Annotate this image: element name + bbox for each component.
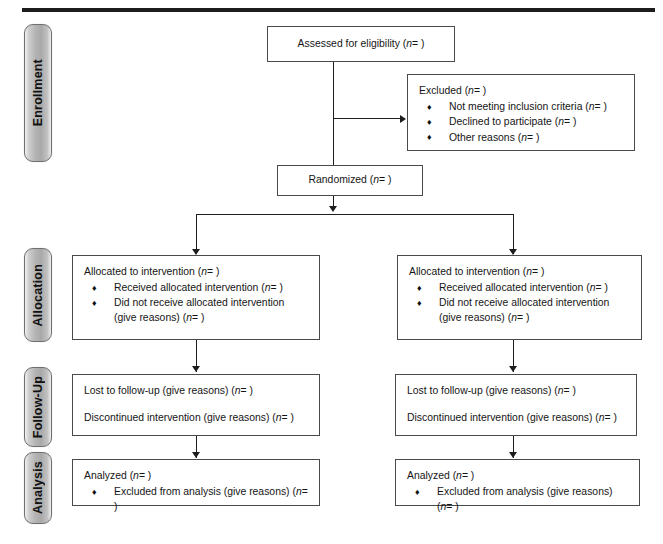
list-item: ♦Other reasons (n= ): [419, 131, 624, 146]
stage-label-allocation: Allocation: [24, 248, 52, 342]
randomized-text-after: = ): [379, 174, 391, 185]
allocated-right-heading: Allocated to intervention (n= ): [409, 265, 631, 279]
allocated-left-bullet-0-before: Received allocated intervention (: [114, 282, 265, 293]
followup-left-line1-after: = ): [241, 385, 253, 396]
stage-label-followup-text: Follow-Up: [31, 376, 45, 438]
analysis-left-heading-before: Analyzed (: [84, 470, 133, 481]
assessed-text-after: = ): [412, 38, 424, 49]
excluded-bullet-1-before: Declined to participate (: [449, 116, 558, 127]
followup-left-line2-after: = ): [282, 412, 294, 423]
list-item: ♦Received allocated intervention (n= ): [409, 281, 631, 296]
analysis-right-bullet-list: ♦Excluded from analysis (give reasons) (…: [407, 485, 629, 515]
followup-right-line2-after: = ): [605, 412, 617, 423]
followup-left-line-2: Discontinued intervention (give reasons)…: [84, 411, 309, 425]
list-item: ♦Did not receive allocated intervention …: [409, 296, 631, 326]
allocated-left-heading-after: = ): [207, 266, 219, 277]
arrowhead-followup-left: [192, 366, 200, 372]
stage-label-enrollment: Enrollment: [24, 24, 52, 162]
box-analysis-left: Analyzed (n= ) ♦Excluded from analysis (…: [72, 459, 320, 506]
box-assessed-for-eligibility: Assessed for eligibility (n= ): [267, 26, 455, 62]
followup-right-line1-after: = ): [564, 385, 576, 396]
excluded-bullet-0-before: Not meeting inclusion criteria (: [449, 101, 589, 112]
list-item: ♦Excluded from analysis (give reasons) (…: [84, 485, 309, 515]
assessed-label: Assessed for eligibility (n= ): [298, 37, 425, 51]
allocated-right-bullet-0-after: = ): [596, 282, 608, 293]
header-rule: [22, 8, 655, 12]
analysis-left-heading: Analyzed (n= ): [84, 469, 309, 483]
arrowhead-randomized-split: [329, 206, 337, 212]
excluded-heading: Excluded (n= ): [419, 84, 624, 98]
followup-right-line1-before: Lost to follow-up (give reasons) (: [407, 385, 558, 396]
excluded-heading-before: Excluded (: [419, 85, 468, 96]
allocated-right-bullet-0-before: Received allocated intervention (: [439, 282, 590, 293]
allocated-left-bullet-1-after: = ): [192, 312, 204, 323]
analysis-right-heading-before: Analyzed (: [407, 470, 456, 481]
allocated-right-bullet-1-after: = ): [517, 312, 529, 323]
allocated-left-bullet-0-after: = ): [271, 282, 283, 293]
list-item: ♦Did not receive allocated intervention …: [84, 296, 309, 326]
connector-to-excluded: [333, 118, 401, 119]
analysis-right-bullet-0-after: = ): [446, 501, 458, 512]
box-analysis-right: Analyzed (n= ) ♦Excluded from analysis (…: [395, 459, 640, 506]
box-randomized: Randomized (n= ): [277, 165, 423, 196]
allocated-right-bullet-list: ♦Received allocated intervention (n= ) ♦…: [409, 281, 631, 326]
analysis-left-heading-after: = ): [139, 470, 151, 481]
followup-left-line-1: Lost to follow-up (give reasons) (n= ): [84, 384, 309, 398]
followup-right-line2-before: Discontinued intervention (give reasons)…: [407, 412, 599, 423]
excluded-bullet-0-after: = ): [595, 101, 607, 112]
list-item: ♦Excluded from analysis (give reasons) (…: [407, 485, 629, 515]
diamond-bullet-icon: ♦: [417, 297, 422, 310]
excluded-bullet-2-after: = ): [527, 132, 539, 143]
followup-right-line-1: Lost to follow-up (give reasons) (n= ): [407, 384, 626, 398]
box-allocated-left: Allocated to intervention (n= ) ♦Receive…: [72, 255, 320, 340]
allocated-right-heading-after: = ): [532, 266, 544, 277]
assessed-text-before: Assessed for eligibility (: [298, 38, 407, 49]
diamond-bullet-icon: ♦: [427, 116, 432, 129]
excluded-heading-after: = ): [474, 85, 486, 96]
connector-split-bar: [196, 214, 514, 215]
list-item: ♦Declined to participate (n= ): [419, 115, 624, 130]
box-followup-right: Lost to follow-up (give reasons) (n= ) D…: [395, 374, 637, 436]
stage-label-analysis-text: Analysis: [31, 461, 45, 514]
allocated-right-heading-before: Allocated to intervention (: [409, 266, 526, 277]
arrowhead-analysis-left: [192, 452, 200, 458]
diamond-bullet-icon: ♦: [417, 282, 422, 295]
allocated-left-heading-before: Allocated to intervention (: [84, 266, 201, 277]
consort-flow-diagram: Enrollment Allocation Follow-Up Analysis…: [0, 0, 663, 544]
stage-label-allocation-text: Allocation: [31, 264, 45, 326]
stage-label-analysis: Analysis: [24, 452, 52, 524]
excluded-bullet-2-before: Other reasons (: [449, 132, 521, 143]
diamond-bullet-icon: ♦: [415, 486, 420, 499]
arrowhead-to-excluded: [400, 115, 406, 123]
followup-right-lines: Lost to follow-up (give reasons) (n= ) D…: [407, 384, 626, 425]
followup-right-line-2: Discontinued intervention (give reasons)…: [407, 411, 626, 425]
list-item: ♦Received allocated intervention (n= ): [84, 281, 309, 296]
list-item: ♦Not meeting inclusion criteria (n= ): [419, 100, 624, 115]
diamond-bullet-icon: ♦: [427, 101, 432, 114]
analysis-right-bullet-0-before: Excluded from analysis (give reasons) (: [437, 486, 613, 512]
allocated-left-bullet-list: ♦Received allocated intervention (n= ) ♦…: [84, 281, 309, 326]
randomized-text-before: Randomized (: [309, 174, 374, 185]
arrowhead-analysis-right: [509, 452, 517, 458]
followup-left-line2-before: Discontinued intervention (give reasons)…: [84, 412, 276, 423]
excluded-bullet-list: ♦Not meeting inclusion criteria (n= ) ♦D…: [419, 100, 624, 145]
diamond-bullet-icon: ♦: [92, 282, 97, 295]
analysis-right-heading-after: = ): [462, 470, 474, 481]
stage-label-enrollment-text: Enrollment: [31, 59, 45, 126]
randomized-label: Randomized (n= ): [309, 173, 392, 187]
analysis-left-bullet-list: ♦Excluded from analysis (give reasons) (…: [84, 485, 309, 515]
box-allocated-right: Allocated to intervention (n= ) ♦Receive…: [397, 255, 642, 340]
diamond-bullet-icon: ♦: [427, 131, 432, 144]
followup-left-line1-before: Lost to follow-up (give reasons) (: [84, 385, 235, 396]
connector-split-right: [513, 214, 514, 254]
analysis-right-heading: Analyzed (n= ): [407, 469, 629, 483]
followup-left-lines: Lost to follow-up (give reasons) (n= ) D…: [84, 384, 309, 425]
diamond-bullet-icon: ♦: [92, 486, 97, 499]
stage-label-followup: Follow-Up: [24, 367, 52, 447]
connector-split-left: [196, 214, 197, 254]
allocated-left-heading: Allocated to intervention (n= ): [84, 265, 309, 279]
arrowhead-followup-right: [509, 366, 517, 372]
box-followup-left: Lost to follow-up (give reasons) (n= ) D…: [72, 374, 320, 436]
excluded-bullet-1-after: = ): [564, 116, 576, 127]
diamond-bullet-icon: ♦: [92, 297, 97, 310]
